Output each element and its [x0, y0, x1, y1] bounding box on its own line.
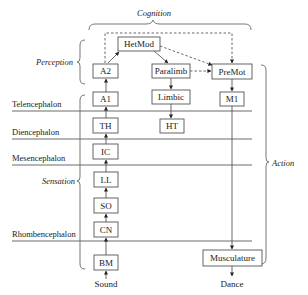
node-bm: BM — [94, 255, 118, 270]
node-label-hetmod: HetMod — [124, 39, 154, 49]
node-label-a2: A2 — [100, 66, 111, 76]
node-th: TH — [93, 118, 118, 133]
region-label-diencephalon: Diencephalon — [12, 127, 60, 137]
a2-to-hetmod — [108, 52, 119, 63]
node-so: SO — [94, 198, 118, 213]
node-a2: A2 — [93, 64, 118, 78]
sensation-label: Sensation — [42, 176, 75, 186]
node-ht: HT — [160, 119, 184, 133]
hetmod-to-paralimb — [154, 51, 168, 63]
sensation-brace — [77, 95, 85, 269]
perception-label: Perception — [35, 57, 73, 67]
node-label-th: TH — [100, 121, 112, 131]
node-label-m1: M1 — [226, 94, 239, 104]
cognition-label: Cognition — [137, 8, 171, 18]
node-cn: CN — [94, 222, 118, 237]
node-label-bm: BM — [99, 258, 113, 268]
action-brace — [261, 65, 269, 264]
cognition-brace — [89, 20, 251, 30]
node-label-musculature: Musculature — [210, 253, 255, 263]
node-hetmod: HetMod — [118, 37, 160, 51]
region-label-mesencephalon: Mesencephalon — [12, 153, 66, 163]
node-musculature: Musculature — [203, 250, 262, 266]
node-label-so: SO — [100, 201, 112, 211]
region-labels: Telencephalon Diencephalon Mesencephalon… — [12, 99, 76, 239]
node-label-ht: HT — [166, 121, 178, 131]
perception-brace — [77, 40, 85, 84]
node-label-a1: A1 — [100, 94, 111, 104]
brain-music-dance-diagram: Telencephalon Diencephalon Mesencephalon… — [0, 0, 308, 295]
region-label-rhombencephalon: Rhombencephalon — [12, 229, 76, 239]
hetmod-to-premot-dashed — [160, 46, 212, 65]
node-label-limbic: Limbic — [158, 92, 184, 102]
input-label-sound: Sound — [94, 279, 118, 289]
output-label-dance: Dance — [221, 279, 244, 289]
node-m1: M1 — [220, 92, 244, 106]
node-ll: LL — [94, 172, 118, 187]
node-label-cn: CN — [100, 225, 113, 235]
action-label: Action — [271, 158, 294, 168]
node-label-premot: PreMot — [219, 67, 246, 77]
node-label-paralimb: Paralimb — [155, 66, 188, 76]
node-ic: IC — [93, 144, 118, 159]
node-premot: PreMot — [212, 64, 252, 79]
node-paralimb: Paralimb — [152, 64, 190, 78]
node-limbic: Limbic — [152, 90, 190, 104]
node-a1: A1 — [93, 92, 118, 106]
node-label-ic: IC — [101, 147, 110, 157]
node-label-ll: LL — [101, 175, 112, 185]
region-label-telencephalon: Telencephalon — [12, 99, 62, 109]
